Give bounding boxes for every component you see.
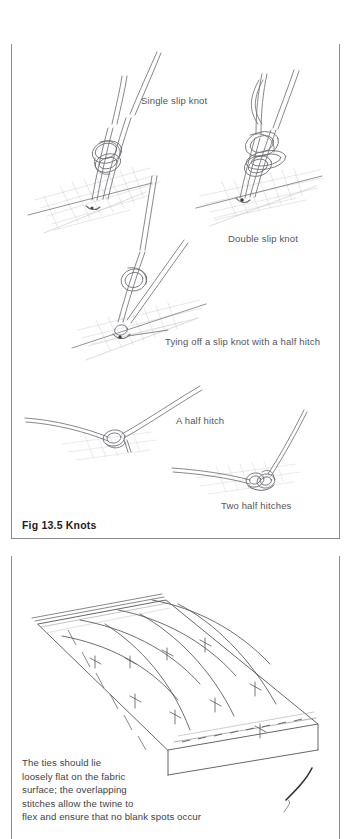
label-tying-off-slip-knot: Tying off a slip knot with a half hitch	[165, 336, 320, 347]
caption-line-3: surface; the overlapping	[22, 783, 201, 797]
caption-line-2: loosely flat on the fabric	[22, 770, 201, 784]
document-page: Single slip knot Double slip knot Tying …	[0, 0, 351, 839]
lower-figure-caption: The ties should lie loosely flat on the …	[22, 756, 201, 824]
caption-line-5: flex and ensure that no blank spots occu…	[22, 810, 201, 824]
caption-line-4: stitches allow the twine to	[22, 797, 201, 811]
figure-knots-panel	[11, 44, 340, 539]
label-single-slip-knot: Single slip knot	[141, 95, 207, 106]
label-a-half-hitch: A half hitch	[176, 415, 224, 426]
figure-title: Fig 13.5 Knots	[22, 519, 97, 531]
caption-line-1: The ties should lie	[22, 756, 201, 770]
label-double-slip-knot: Double slip knot	[228, 233, 298, 244]
label-two-half-hitches: Two half hitches	[221, 500, 292, 511]
